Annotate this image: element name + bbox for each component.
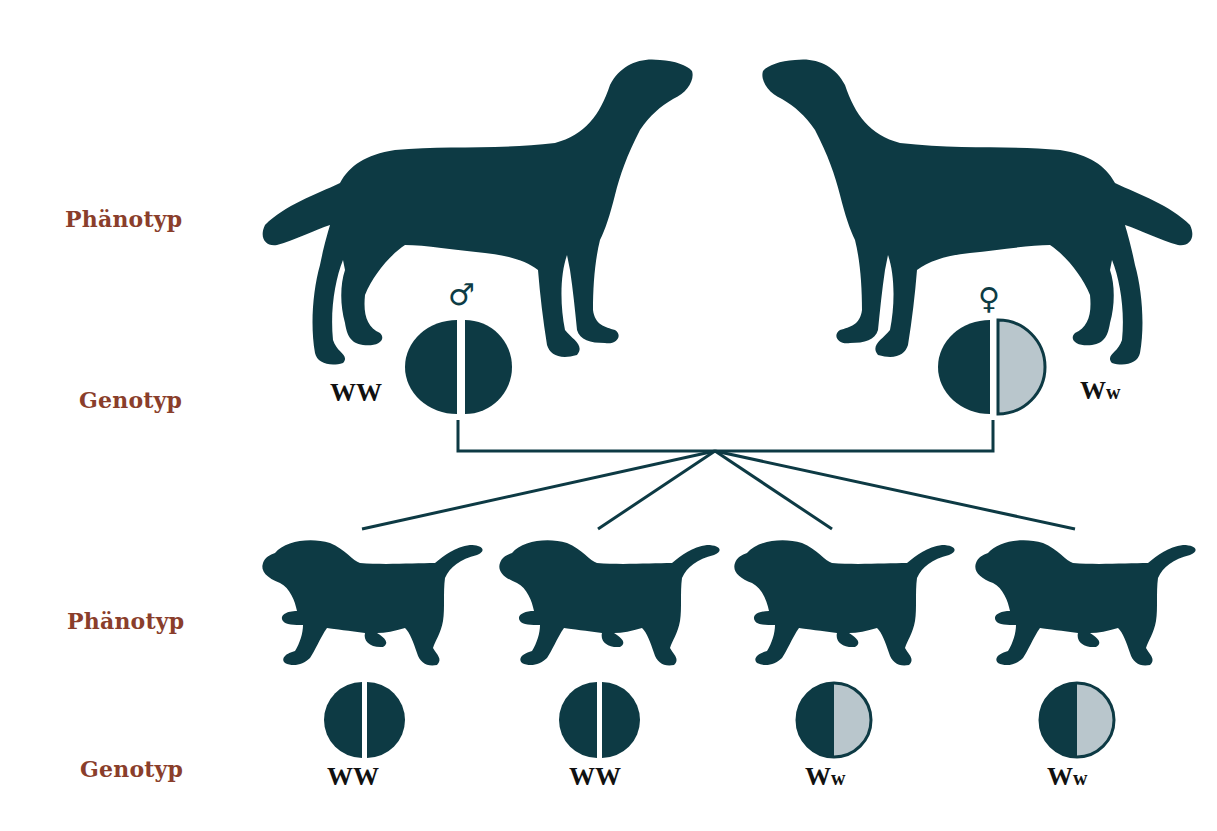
offspring-1-puppy-silhouette <box>262 540 482 665</box>
offspring-1-genotype-circle <box>324 682 405 758</box>
offspring-2-puppy-silhouette <box>499 540 719 665</box>
offspring-4-puppy-silhouette <box>975 540 1195 665</box>
female-symbol-icon: ♀ <box>978 284 1000 314</box>
diagram-graphics <box>0 0 1217 831</box>
offspring-3-genotype-circle <box>797 683 871 757</box>
female-parent-dog-silhouette <box>762 59 1192 364</box>
male-symbol-icon: ♂ <box>448 280 475 310</box>
offspring-4-genotype-text: Ww <box>1047 764 1087 790</box>
male-parent-dog-silhouette <box>263 59 693 364</box>
offspring-1-genotype-text: WW <box>327 764 379 790</box>
male-genotype-circle <box>405 320 512 414</box>
offspring-3-genotype-text: Ww <box>805 764 845 790</box>
female-genotype-text: Ww <box>1080 378 1120 404</box>
male-genotype-text: WW <box>330 380 382 406</box>
offspring-2-genotype-text: WW <box>569 764 621 790</box>
cross-connector-lines <box>362 420 1075 529</box>
offspring-3-puppy-silhouette <box>734 540 954 665</box>
offspring-4-genotype-circle <box>1040 683 1114 757</box>
offspring-2-genotype-circle <box>559 682 640 758</box>
female-genotype-circle <box>938 320 1045 414</box>
